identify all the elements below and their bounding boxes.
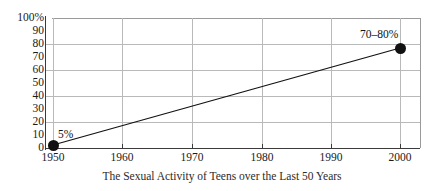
y-tick-label: 60	[0, 64, 44, 76]
x-tick-label: 1970	[181, 152, 204, 164]
gridline-vertical-1960	[122, 18, 123, 148]
gridline-horizontal-60	[45, 70, 420, 71]
x-tick-label: 1980	[251, 152, 274, 164]
plot-right-border	[420, 18, 421, 148]
gridline-vertical-2000	[400, 18, 401, 148]
x-tick-mark	[122, 144, 123, 149]
gridline-vertical-1970	[192, 18, 193, 148]
x-tick-mark	[192, 144, 193, 149]
gridline-horizontal-80	[45, 44, 420, 45]
y-tick-label: 100%	[0, 12, 44, 24]
y-tick-label: 50	[0, 77, 44, 89]
y-tick-label: 90	[0, 25, 44, 37]
x-axis-line	[45, 148, 420, 149]
gridline-vertical-1950	[53, 18, 54, 148]
x-tick-label: 1990	[320, 152, 343, 164]
y-axis-line	[45, 16, 46, 150]
x-tick-mark	[262, 144, 263, 149]
x-tick-mark	[331, 144, 332, 149]
x-tick-label: 2000	[389, 152, 412, 164]
y-tick-label: 40	[0, 90, 44, 102]
chart-caption: The Sexual Activity of Teens over the La…	[0, 170, 444, 183]
x-tick-label: 1950	[42, 152, 65, 164]
y-axis-labels: 100% 90 80 70 60 50 40 30 20 10 0	[0, 0, 44, 191]
data-point-1950	[48, 140, 59, 151]
y-tick-label: 80	[0, 38, 44, 50]
y-tick-label: 0	[0, 142, 44, 154]
data-point-2000	[395, 43, 406, 54]
gridline-vertical-1990	[331, 18, 332, 148]
chart-container: 100% 90 80 70 60 50 40 30 20 10 0 5%	[0, 0, 444, 191]
gridline-horizontal-20	[45, 122, 420, 123]
x-tick-mark	[400, 144, 401, 149]
y-tick-label: 70	[0, 51, 44, 63]
y-tick-label: 10	[0, 129, 44, 141]
gridline-horizontal-40	[45, 96, 420, 97]
data-label-1950: 5%	[58, 129, 73, 141]
data-label-2000: 70–80%	[360, 29, 398, 41]
x-tick-label: 1960	[111, 152, 134, 164]
gridline-vertical-1980	[262, 18, 263, 148]
y-tick-label: 30	[0, 103, 44, 115]
y-tick-label: 20	[0, 116, 44, 128]
plot-top-border	[52, 18, 420, 19]
